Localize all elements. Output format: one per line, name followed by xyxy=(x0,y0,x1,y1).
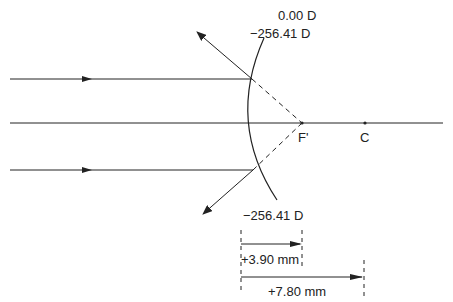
reflected-ray-top xyxy=(197,32,252,79)
incident-ray-bottom xyxy=(10,167,253,173)
focal-length-label: +3.90 mm xyxy=(241,252,299,267)
mirror-diagram: 0.00 D −256.41 D F' C −256.41 D +3.90 mm… xyxy=(0,0,453,302)
top-power-label-2: −256.41 D xyxy=(250,26,310,41)
radius-label: +7.80 mm xyxy=(268,284,326,299)
virtual-ray-top xyxy=(252,79,302,123)
top-power-label-1: 0.00 D xyxy=(278,8,316,23)
focal-point-label: F' xyxy=(298,130,308,145)
center-label: C xyxy=(360,130,369,145)
center-point-dot xyxy=(363,121,366,124)
bottom-power-label: −256.41 D xyxy=(243,208,303,223)
convex-mirror-surface xyxy=(248,38,277,200)
focal-length-dimension: +3.90 mm xyxy=(241,241,302,267)
virtual-ray-bottom xyxy=(253,123,302,170)
radius-dimension: +7.80 mm xyxy=(241,274,363,299)
incident-ray-top xyxy=(10,76,252,82)
focal-point-dot xyxy=(300,121,303,124)
